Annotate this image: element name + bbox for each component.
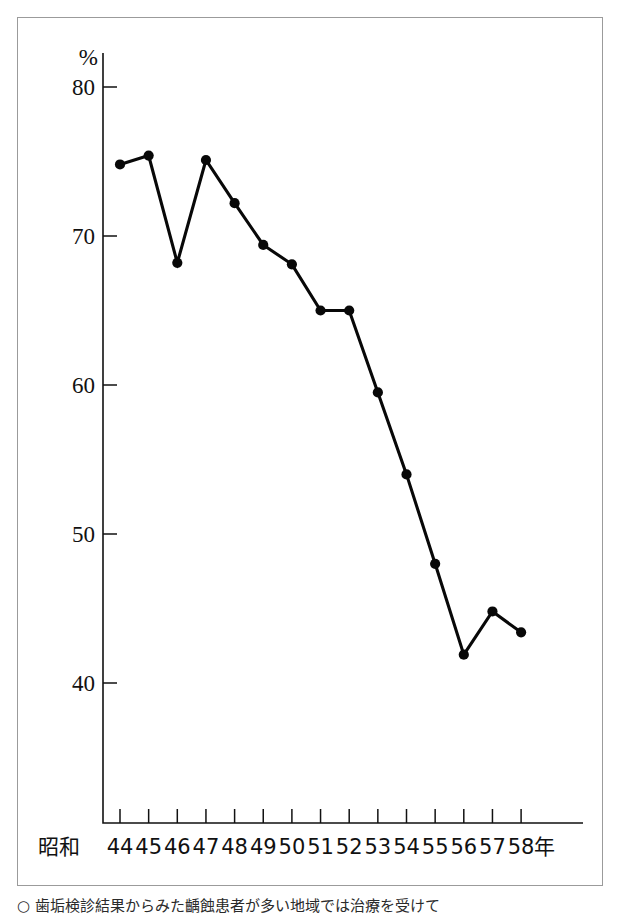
- data-point-marker: [315, 305, 325, 315]
- x-tick-label: 46: [164, 835, 191, 859]
- chart-area: 4050607080 44454647484950515253545556575…: [18, 18, 604, 887]
- data-point-marker: [373, 387, 383, 397]
- data-points: [115, 150, 526, 659]
- x-tick-label: 55: [422, 835, 449, 859]
- x-tick-label: 52: [336, 835, 363, 859]
- x-tick-label: 54: [393, 835, 420, 859]
- data-point-marker: [430, 559, 440, 569]
- axes-group: [103, 53, 583, 823]
- x-axis-year-suffix: 年: [534, 835, 555, 859]
- x-axis-labels: 444546474849505152535455565758: [107, 835, 535, 859]
- axis-lines: [103, 53, 583, 823]
- data-point-marker: [230, 198, 240, 208]
- x-axis-ticks: [120, 809, 521, 823]
- figure-frame: 4050607080 44454647484950515253545556575…: [17, 17, 603, 886]
- data-series-line: [120, 156, 521, 655]
- y-tick-label: 80: [72, 75, 95, 100]
- x-tick-label: 45: [135, 835, 162, 859]
- x-tick-label: 53: [364, 835, 391, 859]
- x-tick-label: 48: [221, 835, 248, 859]
- x-tick-label: 47: [193, 835, 220, 859]
- data-point-marker: [487, 606, 497, 616]
- data-point-marker: [516, 627, 526, 637]
- line-chart: 4050607080 44454647484950515253545556575…: [18, 18, 604, 887]
- x-tick-label: 56: [450, 835, 477, 859]
- y-axis-ticks: [103, 87, 117, 683]
- data-point-marker: [344, 305, 354, 315]
- x-tick-label: 50: [279, 835, 306, 859]
- y-axis-unit-label: %: [79, 45, 98, 70]
- y-tick-label: 70: [72, 224, 95, 249]
- data-point-marker: [172, 258, 182, 268]
- data-point-marker: [401, 469, 411, 479]
- data-point-marker: [201, 155, 211, 165]
- x-tick-label: 58: [508, 835, 535, 859]
- y-tick-label: 50: [72, 522, 95, 547]
- y-axis-labels: 4050607080: [72, 75, 95, 696]
- data-point-marker: [287, 259, 297, 269]
- x-tick-label: 44: [107, 835, 134, 859]
- data-point-marker: [144, 150, 154, 160]
- x-axis-era-prefix: 昭和: [38, 835, 80, 859]
- figure-caption: ○ 歯垢検診結果からみた齲蝕患者が多い地域では治療を受けて: [17, 896, 603, 916]
- data-point-marker: [459, 650, 469, 660]
- x-tick-label: 51: [307, 835, 334, 859]
- x-tick-label: 57: [479, 835, 506, 859]
- x-tick-label: 49: [250, 835, 277, 859]
- data-point-marker: [115, 159, 125, 169]
- data-point-marker: [258, 240, 268, 250]
- y-tick-label: 60: [72, 373, 95, 398]
- y-tick-label: 40: [72, 671, 95, 696]
